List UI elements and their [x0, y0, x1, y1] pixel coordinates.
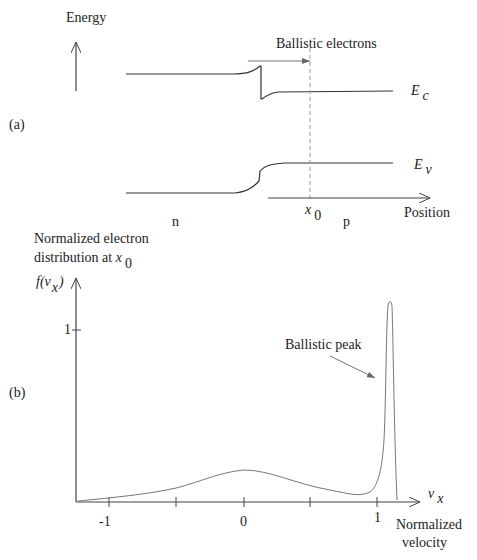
distribution-curve [78, 302, 397, 502]
panel-a-label: (a) [9, 117, 25, 133]
f-label-sub: x [52, 280, 58, 295]
ec-subscript: c [423, 88, 429, 103]
conduction-band-label: Ec [411, 83, 426, 99]
valence-band-line [126, 163, 393, 193]
panel-b-label: (b) [9, 385, 25, 401]
f-label-close: ) [59, 274, 64, 289]
position-axis-label: Position [404, 205, 450, 221]
distribution-title-var-sub: 0 [125, 256, 132, 271]
diagram-canvas [0, 0, 477, 560]
ballistic-peak-label: Ballistic peak [285, 337, 362, 353]
velocity-axis-label-line1: Normalized [396, 517, 462, 533]
x-tick-label-0: 0 [240, 514, 247, 530]
f-label-open: f(v [36, 274, 51, 289]
y-tick-label-1: 1 [64, 322, 71, 338]
distribution-title-line2: distribution at x0 [34, 250, 129, 266]
x0-label: x0 [305, 202, 318, 218]
x0-subscript: 0 [314, 208, 321, 223]
energy-axis-label: Energy [66, 10, 106, 26]
x-tick-label-minus1: -1 [99, 514, 111, 530]
region-p-label: p [343, 214, 350, 230]
vx-symbol: v [428, 486, 434, 501]
ballistic-electrons-label: Ballistic electrons [276, 36, 377, 52]
x0-symbol: x [305, 202, 311, 217]
distribution-title-line1: Normalized electron [34, 231, 149, 247]
valence-band-label: Ev [414, 157, 429, 173]
x-tick-label-1: 1 [374, 510, 381, 526]
region-n-label: n [172, 214, 179, 230]
conduction-band-line [126, 66, 393, 99]
ballistic-peak-pointer [330, 356, 375, 378]
vx-axis-label: vx [428, 486, 440, 502]
distribution-title-text: distribution at [34, 250, 112, 265]
velocity-axis-label-line2: velocity [402, 535, 447, 551]
ev-subscript: v [426, 162, 432, 177]
ec-symbol: E [411, 83, 420, 98]
distribution-title-var: x [116, 250, 122, 265]
ev-symbol: E [414, 157, 423, 172]
f-axis-label: f(vx) [36, 274, 62, 290]
vx-subscript: x [437, 491, 443, 506]
